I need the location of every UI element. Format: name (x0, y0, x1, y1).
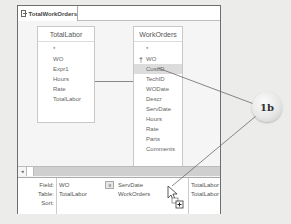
step-callout: 1b (252, 92, 282, 122)
drag-cursor-icon (167, 185, 187, 211)
callout-leader-lines (0, 0, 291, 224)
